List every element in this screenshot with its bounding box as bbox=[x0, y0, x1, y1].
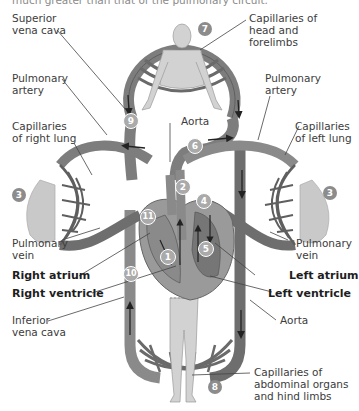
label-aorta-top: Aorta bbox=[181, 115, 209, 127]
label-capillaries-left-lung: Capillaries of left lung bbox=[295, 120, 352, 144]
label-pulmonary-vein-left: Pulmonary vein bbox=[12, 237, 68, 261]
step-badge-3-right: 3 bbox=[323, 186, 337, 200]
lower-body-figure bbox=[170, 298, 198, 402]
right-lung bbox=[27, 165, 90, 245]
step-badge-8: 8 bbox=[208, 380, 222, 394]
label-inferior-vena-cava: Inferior vena cava bbox=[12, 314, 66, 338]
label-right-atrium: Right atrium bbox=[12, 270, 90, 282]
label-right-ventricle: Right ventricle bbox=[12, 288, 104, 300]
left-lung bbox=[265, 165, 329, 245]
upper-systemic-loop bbox=[129, 24, 235, 118]
step-badge-3-left: 3 bbox=[12, 188, 26, 202]
step-badge-11: 11 bbox=[140, 209, 156, 225]
label-capillaries-abdominal-hind-limbs: Capillaries of abdominal organs and hind… bbox=[254, 366, 348, 402]
label-pulmonary-vein-right: Pulmonary vein bbox=[296, 237, 352, 261]
label-capillaries-right-lung: Capillaries of right lung bbox=[12, 120, 76, 144]
step-badge-7: 7 bbox=[198, 22, 212, 36]
step-badge-5: 5 bbox=[198, 241, 214, 257]
step-badge-2: 2 bbox=[175, 179, 191, 195]
label-capillaries-head-forelimbs: Capillaries of head and forelimbs bbox=[249, 12, 317, 48]
label-pulmonary-artery-right: Pulmonary artery bbox=[265, 72, 321, 96]
step-badge-4: 4 bbox=[196, 193, 212, 209]
label-left-ventricle: Left ventricle bbox=[268, 288, 351, 300]
pulmonary-artery-to-right-lung bbox=[60, 146, 150, 165]
label-superior-vena-cava: Superior vena cava bbox=[12, 12, 66, 36]
step-badge-1: 1 bbox=[160, 249, 176, 265]
step-badge-9: 9 bbox=[123, 113, 139, 129]
step-badge-6: 6 bbox=[187, 138, 203, 154]
label-pulmonary-artery-left: Pulmonary artery bbox=[12, 72, 68, 96]
label-aorta-bottom: Aorta bbox=[280, 314, 308, 326]
label-left-atrium: Left atrium bbox=[289, 270, 359, 282]
step-badge-10: 10 bbox=[123, 266, 139, 282]
